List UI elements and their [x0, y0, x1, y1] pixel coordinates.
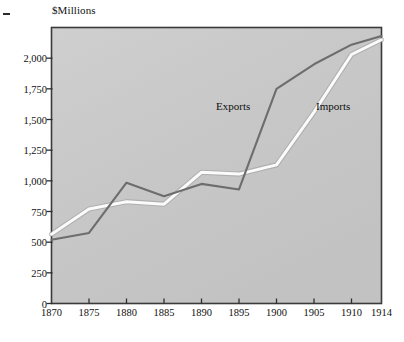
y-axis-tick-label: 1,750 [7, 83, 47, 94]
plot-area [0, 0, 404, 342]
x-axis-tick-label: 1895 [229, 307, 250, 318]
y-axis-tick-label: 2,000 [7, 53, 47, 64]
x-axis-tick-label: 1875 [79, 307, 100, 318]
chart-figure: $Millions 02505007501,0001,2501,5001,750… [0, 0, 404, 342]
x-axis-tick-label: 1890 [191, 307, 212, 318]
y-axis-tick-label: 750 [7, 206, 47, 217]
x-axis-tick-label: 1870 [41, 307, 62, 318]
chart-axis-title: $Millions [52, 4, 96, 16]
y-axis-tick-label: 250 [7, 267, 47, 278]
y-axis-tick-labels: 02505007501,0001,2501,5001,7502,000 [0, 0, 47, 342]
y-axis-tick-label: 1,500 [7, 114, 47, 125]
x-axis-tick-label: 1885 [154, 307, 175, 318]
series-label-exports: Exports [216, 100, 250, 112]
x-axis-tick-label: 1910 [341, 307, 362, 318]
x-axis-tick-label: 1905 [304, 307, 325, 318]
x-axis-tick-label: 1880 [116, 307, 137, 318]
y-axis-tick-label: 500 [7, 237, 47, 248]
y-axis-tick-label: 1,250 [7, 145, 47, 156]
series-label-imports: Imports [316, 100, 350, 112]
plot-background [52, 28, 382, 304]
y-axis-tick-label: 1,000 [7, 175, 47, 186]
x-axis-tick-label: 1900 [266, 307, 287, 318]
x-axis-tick-label: 1914 [371, 307, 392, 318]
